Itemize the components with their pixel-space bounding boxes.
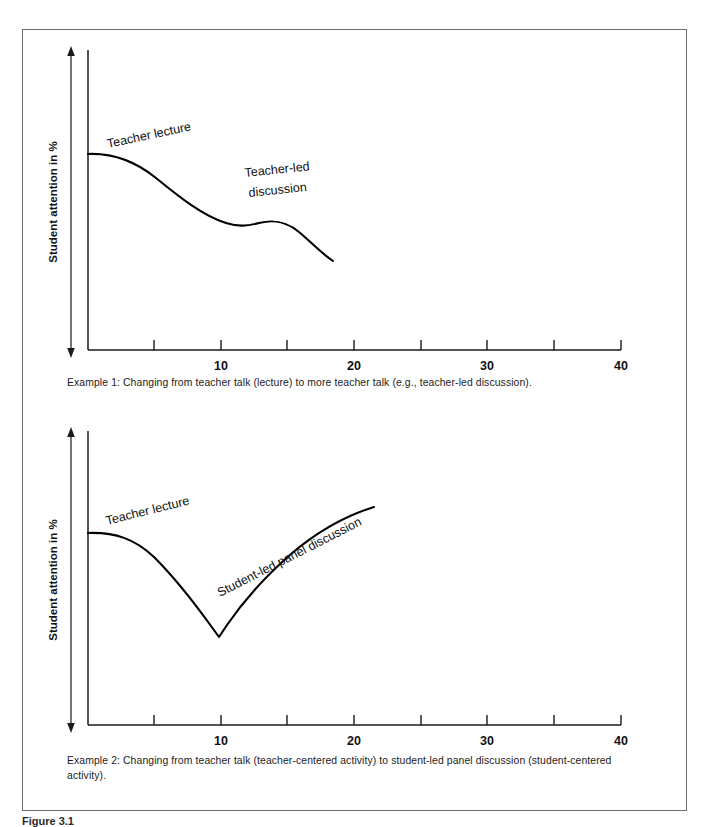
figure-frame: Student attention in % 10 bbox=[22, 29, 687, 811]
x-tick-label-10: 10 bbox=[214, 359, 228, 372]
example-2-panel: Student attention in % 10 bbox=[23, 405, 688, 810]
x-tick-label-10-2: 10 bbox=[214, 734, 228, 748]
y-axis-title-1: Student attention in % bbox=[47, 141, 59, 262]
x-axis-ticks-1 bbox=[154, 340, 621, 350]
curve-label-teacher-lecture-2: Teacher lecture bbox=[104, 494, 190, 528]
curve-label-teacher-led-line1: Teacher-led bbox=[244, 159, 310, 180]
curve-label-student-led-panel-discussion: Student-led panel discussion bbox=[215, 515, 364, 600]
x-tick-label-20: 20 bbox=[347, 359, 361, 372]
example-1-caption: Example 1: Changing from teacher talk (l… bbox=[67, 375, 647, 390]
curve-label-teacher-led-line2: discussion bbox=[248, 180, 308, 200]
y-range-arrow-2 bbox=[67, 427, 75, 733]
y-axis-title-2: Student attention in % bbox=[47, 519, 59, 640]
x-tick-label-30-2: 30 bbox=[480, 734, 494, 748]
chart-example-1: Student attention in % 10 bbox=[23, 30, 688, 370]
x-tick-label-20-2: 20 bbox=[347, 734, 361, 748]
chart-example-2-svg: Student attention in % 10 bbox=[23, 405, 688, 750]
x-tick-label-30: 30 bbox=[480, 359, 494, 372]
x-tick-label-40: 40 bbox=[614, 359, 628, 372]
y-range-arrow bbox=[67, 46, 75, 358]
example-1-panel: Student attention in % 10 bbox=[23, 30, 688, 405]
chart-example-1-svg: Student attention in % 10 bbox=[23, 30, 688, 372]
figure-number-label: Figure 3.1 bbox=[22, 815, 74, 827]
chart-example-2: Student attention in % 10 bbox=[23, 405, 688, 735]
curve-label-teacher-lecture-1: Teacher lecture bbox=[106, 119, 193, 150]
x-tick-label-40-2: 40 bbox=[614, 734, 628, 748]
x-axis-ticks-2 bbox=[154, 715, 621, 725]
example-2-caption: Example 2: Changing from teacher talk (t… bbox=[67, 753, 647, 783]
attention-curve-2 bbox=[88, 507, 374, 637]
